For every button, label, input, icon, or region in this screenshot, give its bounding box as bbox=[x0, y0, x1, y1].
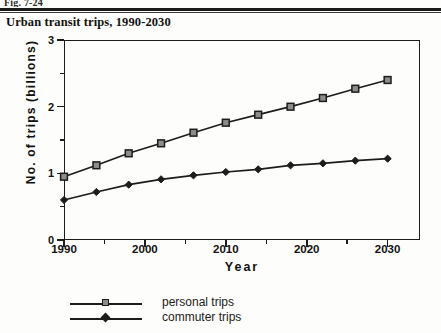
x-minor-tick-mark bbox=[266, 240, 267, 244]
x-minor-tick-mark bbox=[346, 240, 347, 244]
legend-label: commuter trips bbox=[162, 310, 241, 324]
y-tick-label: 2 bbox=[38, 102, 54, 112]
y-axis-label: No. of trips (billions) bbox=[24, 17, 38, 207]
chart-legend: personal tripscommuter trips bbox=[70, 296, 320, 326]
legend-item[interactable]: personal trips bbox=[70, 296, 320, 311]
y-tick-label: 3 bbox=[38, 35, 54, 45]
legend-item[interactable]: commuter trips bbox=[70, 311, 320, 326]
x-minor-tick-mark bbox=[185, 240, 186, 244]
x-tick-label: 1990 bbox=[42, 243, 86, 255]
plot-area: No. of trips (billions) Year 0123 199020… bbox=[0, 0, 441, 333]
legend-label: personal trips bbox=[162, 295, 234, 309]
y-minor-tick-mark bbox=[60, 206, 64, 207]
x-minor-tick-mark bbox=[104, 240, 105, 244]
x-tick-label: 2030 bbox=[366, 243, 410, 255]
y-minor-tick-mark bbox=[60, 73, 64, 74]
x-tick-label: 2000 bbox=[123, 243, 167, 255]
y-minor-tick-mark bbox=[60, 139, 64, 140]
x-tick-label: 2020 bbox=[285, 243, 329, 255]
plot-frame bbox=[64, 40, 420, 240]
y-tick-label: 1 bbox=[38, 168, 54, 178]
diamond-marker bbox=[101, 313, 111, 323]
figure-card: Fig. 7-24 Urban transit trips, 1990-2030… bbox=[0, 0, 441, 333]
x-axis-label: Year bbox=[64, 260, 420, 274]
y-tick-mark bbox=[57, 173, 64, 175]
y-tick-mark bbox=[57, 39, 64, 41]
square-marker bbox=[102, 299, 109, 306]
y-tick-mark bbox=[57, 106, 64, 108]
x-tick-label: 2010 bbox=[204, 243, 248, 255]
